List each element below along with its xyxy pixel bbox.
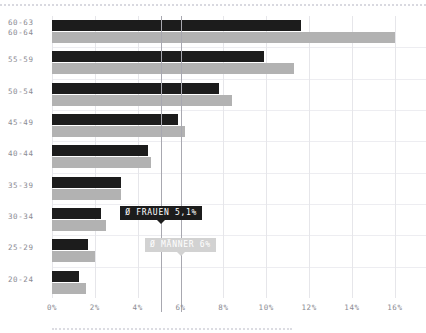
bar-maenner (52, 157, 151, 168)
bar-row (52, 20, 412, 51)
x-axis-tick-label: 10% (259, 303, 274, 312)
bar-maenner (52, 126, 185, 137)
bar-row (52, 145, 412, 176)
y-axis-label: 60-64 (8, 28, 48, 37)
bar-row (52, 239, 412, 270)
y-axis-label: 45-49 (8, 118, 48, 127)
bar-frauen (52, 83, 219, 94)
plot-area (52, 16, 412, 298)
top-dotted-divider (0, 4, 426, 6)
annotation-pointer (157, 220, 165, 224)
reference-line-maenner-average (181, 16, 182, 312)
annotation-badge-maenner-average: Ø MÄNNER 6% (145, 238, 216, 252)
annotation-pointer (177, 252, 185, 256)
x-axis-tick-label: 8% (218, 303, 228, 312)
annotation-badge-frauen-average: Ø FRAUEN 5,1% (120, 206, 202, 220)
bar-maenner (52, 63, 294, 74)
bar-row (52, 51, 412, 82)
x-axis-tick-label: 12% (301, 303, 316, 312)
bar-frauen (52, 239, 88, 250)
bottom-dotted-divider (52, 328, 292, 330)
bar-row (52, 114, 412, 145)
bar-chart: 20-2425-2930-3435-3940-4445-4950-5455-59… (0, 0, 426, 333)
bar-maenner (52, 32, 395, 43)
bar-row (52, 208, 412, 239)
x-axis-tick-label: 4% (133, 303, 143, 312)
bar-maenner (52, 189, 121, 200)
bar-frauen (52, 20, 301, 31)
bar-frauen (52, 51, 264, 62)
bar-frauen (52, 114, 178, 125)
y-axis-label: 40-44 (8, 149, 48, 158)
bar-maenner (52, 251, 95, 262)
bar-maenner (52, 95, 232, 106)
x-axis-tick-label: 14% (344, 303, 359, 312)
bar-row (52, 83, 412, 114)
y-axis-label: 50-54 (8, 87, 48, 96)
x-axis-labels: 0%2%4%6%8%10%12%14%16% (52, 303, 412, 319)
x-axis-tick-label: 6% (175, 303, 185, 312)
bar-maenner (52, 220, 106, 231)
y-axis-label: 55-59 (8, 55, 48, 64)
y-axis-label: 20-24 (8, 275, 48, 284)
bar-row (52, 271, 412, 302)
y-axis-label: 35-39 (8, 181, 48, 190)
x-axis-tick-label: 0% (47, 303, 57, 312)
bar-maenner (52, 283, 86, 294)
bar-frauen (52, 208, 101, 219)
bar-row (52, 177, 412, 208)
y-axis-label: 25-29 (8, 243, 48, 252)
bar-frauen (52, 145, 148, 156)
y-axis-label: 60-63 (8, 18, 48, 27)
bar-frauen (52, 177, 121, 188)
bar-frauen (52, 271, 79, 282)
x-axis-tick-label: 2% (90, 303, 100, 312)
y-axis-label: 30-34 (8, 212, 48, 221)
reference-line-frauen-average (161, 16, 162, 312)
x-axis-tick-label: 16% (387, 303, 402, 312)
